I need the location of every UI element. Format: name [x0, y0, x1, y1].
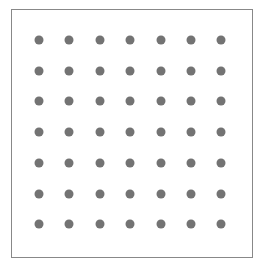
grid-dot	[126, 158, 135, 167]
grid-dot	[95, 158, 104, 167]
grid-dot	[95, 66, 104, 75]
grid-dot	[187, 220, 196, 229]
grid-dot	[95, 189, 104, 198]
grid-dot	[65, 66, 74, 75]
grid-dot	[156, 189, 165, 198]
grid-dot	[95, 220, 104, 229]
grid-dot	[95, 97, 104, 106]
grid-dot	[187, 128, 196, 137]
grid-dot	[187, 158, 196, 167]
grid-dot	[156, 158, 165, 167]
grid-dot	[95, 128, 104, 137]
grid-dot	[156, 128, 165, 137]
grid-dot	[65, 36, 74, 45]
grid-dot	[35, 97, 44, 106]
grid-dot	[126, 97, 135, 106]
grid-dot	[65, 220, 74, 229]
grid-dot	[35, 220, 44, 229]
grid-dot	[126, 36, 135, 45]
grid-dot	[187, 189, 196, 198]
grid-dot	[65, 97, 74, 106]
grid-dot	[187, 97, 196, 106]
grid-dot	[65, 189, 74, 198]
grid-dot	[156, 97, 165, 106]
grid-dot	[126, 189, 135, 198]
grid-dot	[126, 128, 135, 137]
grid-dot	[217, 128, 226, 137]
grid-dot	[126, 220, 135, 229]
grid-dot	[217, 158, 226, 167]
grid-dot	[65, 128, 74, 137]
grid-dot	[65, 158, 74, 167]
grid-dot	[217, 36, 226, 45]
grid-dot	[217, 66, 226, 75]
grid-dot	[35, 66, 44, 75]
grid-dot	[35, 36, 44, 45]
grid-dot	[156, 36, 165, 45]
grid-dot	[217, 189, 226, 198]
grid-dot	[156, 66, 165, 75]
grid-dot	[95, 36, 104, 45]
grid-dot	[187, 36, 196, 45]
grid-dot	[217, 220, 226, 229]
grid-dot	[217, 97, 226, 106]
grid-dot	[35, 128, 44, 137]
grid-dot	[126, 66, 135, 75]
grid-dot	[35, 189, 44, 198]
grid-dot	[35, 158, 44, 167]
grid-dot	[156, 220, 165, 229]
grid-dot	[187, 66, 196, 75]
